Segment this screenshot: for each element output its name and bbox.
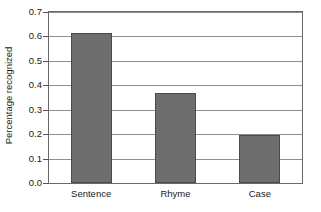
- y-tick-label: 0.0: [18, 178, 42, 188]
- y-tick-mark: [43, 12, 48, 13]
- y-tick-label: 0.6: [18, 31, 42, 41]
- y-tick-mark: [43, 183, 48, 184]
- y-tick-label: 0.1: [18, 154, 42, 164]
- y-tick-mark: [43, 36, 48, 37]
- y-tick-label: 0.3: [18, 105, 42, 115]
- y-tick-label: 0.7: [18, 7, 42, 17]
- bar: [239, 135, 280, 183]
- x-tick-label: Rhyme: [160, 188, 190, 200]
- plot-area: [48, 11, 303, 184]
- y-tick-mark: [43, 110, 48, 111]
- bar: [71, 33, 112, 183]
- y-tick-mark: [43, 85, 48, 86]
- bar-chart: Percentage recognized 0.00.10.20.30.40.5…: [0, 0, 321, 212]
- y-tick-mark: [43, 134, 48, 135]
- y-tick-label: 0.2: [18, 129, 42, 139]
- x-tick-label: Sentence: [71, 188, 111, 200]
- y-axis-title-text: Percentage recognized: [4, 46, 15, 144]
- bar: [155, 93, 196, 183]
- gridline: [49, 12, 302, 13]
- x-axis-tick-labels: SentenceRhymeCase: [48, 188, 303, 204]
- y-tick-label: 0.5: [18, 56, 42, 66]
- y-tick-mark: [43, 159, 48, 160]
- y-tick-mark: [43, 61, 48, 62]
- y-tick-label: 0.4: [18, 80, 42, 90]
- y-axis-tick-labels: 0.00.10.20.30.40.50.60.7: [18, 0, 46, 212]
- x-tick-label: Case: [249, 188, 271, 200]
- y-axis-title: Percentage recognized: [0, 0, 18, 190]
